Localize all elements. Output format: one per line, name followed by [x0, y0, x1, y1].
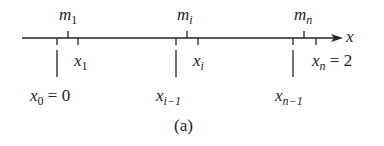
label-mn: mn — [294, 6, 312, 26]
label-xn: xn = 2 — [312, 52, 352, 72]
label-xn-1: xn−1 — [275, 87, 303, 107]
figure-caption: (a) — [174, 117, 193, 134]
label-xi: xi — [193, 52, 204, 72]
label-x0: x0 = 0 — [30, 87, 70, 107]
label-m1: m1 — [59, 6, 77, 26]
label-x1: x1 — [74, 52, 88, 72]
axis-label: x — [346, 28, 354, 45]
label-mi: mi — [177, 6, 193, 26]
label-xi-1: xi−1 — [156, 87, 181, 107]
